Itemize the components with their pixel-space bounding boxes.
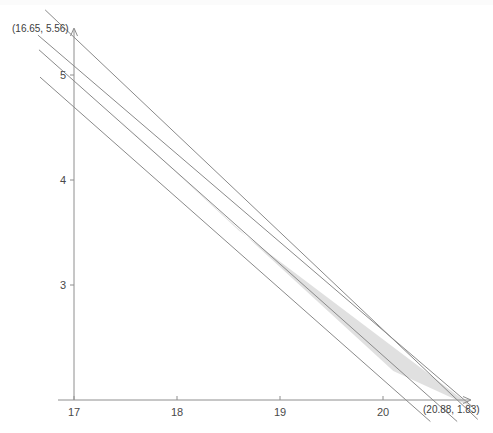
constraint-line-1 <box>45 10 478 420</box>
y-tick-label-4: 4 <box>60 174 66 186</box>
constraint-line-4 <box>40 77 430 421</box>
x-tick-label-19: 19 <box>274 406 286 418</box>
annotation-group: (16.65, 5.56)(20.88, 1.83) <box>12 23 480 415</box>
y-tick-label-5: 5 <box>60 69 66 81</box>
x-tick-group: 17181920 <box>68 396 389 418</box>
constraint-line-2 <box>38 35 474 408</box>
x-tick-label-18: 18 <box>171 406 183 418</box>
y-tick-label-3: 3 <box>60 279 66 291</box>
axes-group <box>58 28 471 404</box>
constraint-line-3 <box>39 50 457 422</box>
upper-left-point-label: (16.65, 5.56) <box>12 23 69 34</box>
y-tick-group: 345 <box>60 69 74 291</box>
plot-canvas: 17181920 345 (16.65, 5.56)(20.88, 1.83) <box>0 0 493 433</box>
data-lines-group <box>38 10 478 422</box>
x-tick-label-17: 17 <box>68 406 80 418</box>
lower-right-point-label: (20.88, 1.83) <box>423 404 480 415</box>
chart-figure: 17181920 345 (16.65, 5.56)(20.88, 1.83) <box>0 0 493 433</box>
x-tick-label-20: 20 <box>377 406 389 418</box>
